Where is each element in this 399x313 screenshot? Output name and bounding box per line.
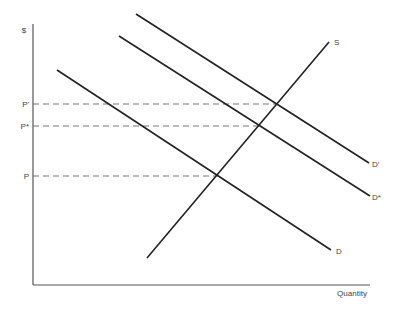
price-label-p-star: P*	[21, 122, 29, 131]
price-label-p: P	[24, 172, 29, 181]
demand-curve-d-label: D	[336, 247, 342, 256]
demand-curve-d-star-label: D*	[372, 193, 381, 202]
demand-curve-d	[57, 70, 331, 250]
demand-curve-d-star	[119, 36, 370, 196]
supply-demand-chart: $ Quantity P' P* P S D D* D'	[0, 0, 399, 313]
demand-curve-d-prime	[136, 14, 369, 163]
supply-curve-label: S	[334, 38, 339, 47]
x-axis-label: Quantity	[337, 289, 367, 298]
supply-curve	[147, 42, 329, 258]
demand-curve-d-prime-label: D'	[372, 160, 380, 169]
y-axis-label: $	[22, 26, 27, 35]
price-label-p-prime: P'	[22, 100, 29, 109]
